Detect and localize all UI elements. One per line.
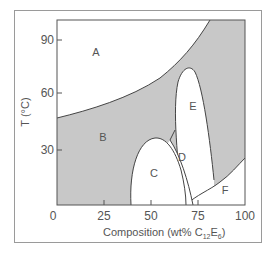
x-tick-label-0: 0: [50, 209, 57, 223]
region-label-c: C: [150, 167, 158, 179]
x-tick-label-100: 100: [235, 209, 255, 223]
region-label-d: D: [178, 151, 186, 163]
x-axis-label: Composition (wt% C12E6): [103, 226, 225, 240]
x-tick-label-75: 75: [191, 209, 205, 223]
y-tick-label-30: 30: [41, 143, 55, 157]
x-tick-label-25: 25: [97, 209, 111, 223]
region-label-a: A: [92, 46, 100, 58]
phase-diagram: 90 60 30 0 25 50 75 100 T (°C) Compositi…: [0, 0, 276, 254]
y-tick-label-90: 90: [41, 33, 55, 47]
region-label-e: E: [189, 100, 196, 112]
y-tick-label-60: 60: [41, 86, 55, 100]
region-label-b: B: [99, 131, 106, 143]
region-label-f: F: [222, 184, 229, 196]
y-axis-label: T (°C): [19, 97, 31, 126]
x-tick-label-50: 50: [144, 209, 158, 223]
